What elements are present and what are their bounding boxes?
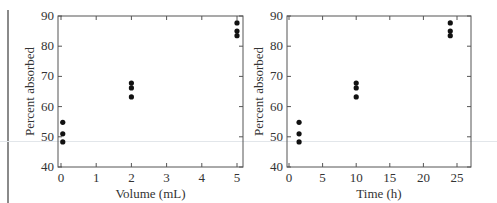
y-tick-label: 60 xyxy=(41,99,54,114)
x-tick-label: 2 xyxy=(128,170,135,185)
x-axis-label: Time (h) xyxy=(356,186,401,201)
x-tick-label: 0 xyxy=(286,170,293,185)
y-tick-label: 60 xyxy=(270,99,283,114)
charts-canvas: 405060708090012345Volume (mL)Percent abs… xyxy=(0,0,497,203)
data-point xyxy=(296,120,301,125)
data-point xyxy=(234,29,239,34)
x-tick-label: 15 xyxy=(383,170,396,185)
data-point xyxy=(354,85,359,90)
data-point xyxy=(296,131,301,136)
data-point xyxy=(60,139,65,144)
data-point xyxy=(354,94,359,99)
y-tick-label: 40 xyxy=(41,159,54,174)
plot-frame xyxy=(287,16,471,167)
data-point xyxy=(234,33,239,38)
x-tick-label: 1 xyxy=(93,170,100,185)
x-tick-label: 20 xyxy=(417,170,430,185)
y-tick-label: 90 xyxy=(41,8,54,23)
x-tick-label: 10 xyxy=(350,170,363,185)
x-tick-label: 3 xyxy=(163,170,170,185)
chart-volume: 405060708090012345Volume (mL)Percent abs… xyxy=(22,8,243,201)
x-tick-label: 5 xyxy=(319,170,326,185)
data-point xyxy=(448,33,453,38)
y-axis-label: Percent absorbed xyxy=(251,46,266,136)
data-point xyxy=(60,120,65,125)
y-tick-label: 80 xyxy=(41,38,54,53)
y-tick-label: 90 xyxy=(270,8,283,23)
data-point xyxy=(129,94,134,99)
data-point xyxy=(448,20,453,25)
y-axis-label: Percent absorbed xyxy=(22,46,37,136)
data-point xyxy=(129,80,134,85)
y-tick-label: 50 xyxy=(270,129,283,144)
data-point xyxy=(234,20,239,25)
x-tick-label: 0 xyxy=(58,170,65,185)
x-axis-label: Volume (mL) xyxy=(115,186,185,201)
plot-frame xyxy=(58,16,243,167)
y-tick-label: 80 xyxy=(270,38,283,53)
chart-time: 4050607080900510152025Time (h)Percent ab… xyxy=(251,8,471,201)
y-tick-label: 70 xyxy=(270,68,283,83)
y-tick-label: 70 xyxy=(41,68,54,83)
data-point xyxy=(354,80,359,85)
x-tick-label: 25 xyxy=(451,170,464,185)
x-tick-label: 4 xyxy=(199,170,206,185)
y-tick-label: 40 xyxy=(270,159,283,174)
y-tick-label: 50 xyxy=(41,129,54,144)
data-point xyxy=(296,139,301,144)
data-point xyxy=(448,29,453,34)
x-tick-label: 5 xyxy=(234,170,241,185)
data-point xyxy=(60,131,65,136)
data-point xyxy=(129,85,134,90)
